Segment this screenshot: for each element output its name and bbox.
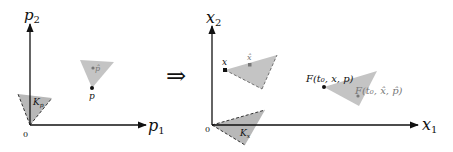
p2-axis-label: p2 bbox=[24, 6, 40, 25]
p-label: p bbox=[89, 91, 95, 101]
cone-mapping-diagram: p2 p1 0 Kp p̂ p ⇒ x x̂ F(t₀, x, p bbox=[0, 0, 453, 152]
p-hat-label: p̂ bbox=[95, 64, 100, 73]
x2-axis-label: x2 bbox=[206, 8, 221, 28]
x-label: x bbox=[222, 57, 227, 67]
cone-kx bbox=[212, 110, 265, 145]
F-hat-label: F(t₀, x̂, p̂) bbox=[354, 85, 403, 96]
implies-arrow: ⇒ bbox=[166, 62, 186, 90]
left-panel: p2 p1 0 Kp p̂ p bbox=[18, 6, 165, 139]
right-panel: x x̂ F(t₀, x, p) F(t₀, x̂, p̂) x2 x1 0 K… bbox=[205, 8, 437, 145]
origin-label-left: 0 bbox=[23, 130, 28, 139]
x-point bbox=[223, 68, 227, 72]
origin-label-right: 0 bbox=[205, 125, 210, 134]
x-hat-label: x̂ bbox=[247, 53, 252, 62]
x-hat-point bbox=[248, 63, 252, 67]
F-point bbox=[322, 85, 326, 89]
x1-axis-label: x1 bbox=[422, 115, 437, 135]
p1-axis-label: p1 bbox=[148, 116, 165, 136]
p-point bbox=[90, 86, 94, 90]
F-label: F(t₀, x, p) bbox=[305, 73, 354, 84]
